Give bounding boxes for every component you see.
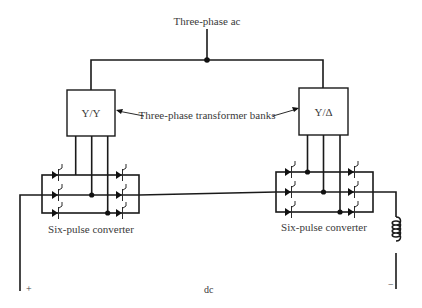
converter-left: Six-pulse converter bbox=[42, 136, 139, 235]
arrowhead-left-icon bbox=[116, 109, 123, 114]
dc-label: dc bbox=[204, 284, 214, 295]
transformer-yy-label: Y/Y bbox=[82, 107, 101, 119]
hvdc-diagram: Three-phase ac Y/Y Y/Δ Three-phase trans… bbox=[0, 0, 422, 308]
converter-right-label: Six-pulse converter bbox=[281, 221, 367, 233]
converter-right: Six-pulse converter bbox=[276, 135, 373, 233]
dc-negative-wire-top bbox=[373, 192, 396, 217]
dc-positive-wire bbox=[20, 195, 42, 291]
ac-junction-dot bbox=[204, 57, 210, 63]
plus-terminal-label: + bbox=[26, 283, 32, 294]
thyristor-icon bbox=[348, 161, 358, 178]
minus-terminal-label: − bbox=[388, 279, 394, 290]
series-link-wire bbox=[139, 192, 276, 195]
transformer-banks-label: Three-phase transformer banks bbox=[139, 109, 276, 121]
ac-bus bbox=[91, 60, 323, 90]
thyristor-icon bbox=[348, 181, 358, 198]
thyristor-icon bbox=[116, 202, 126, 219]
arrowhead-right-icon bbox=[292, 107, 299, 112]
thyristor-icon bbox=[285, 181, 295, 198]
thyristor-icon bbox=[52, 184, 62, 201]
thyristor-icon bbox=[116, 164, 126, 181]
converter-left-label: Six-pulse converter bbox=[48, 223, 134, 235]
thyristor-icon bbox=[285, 161, 295, 178]
inductor-icon bbox=[392, 217, 400, 241]
transformer-yy: Y/Y bbox=[67, 90, 115, 136]
thyristor-icon bbox=[52, 202, 62, 219]
thyristor-icon bbox=[285, 201, 295, 218]
ac-source-label: Three-phase ac bbox=[174, 15, 241, 27]
transformer-yd: Y/Δ bbox=[299, 88, 348, 135]
thyristor-icon bbox=[348, 201, 358, 218]
thyristor-icon bbox=[52, 164, 62, 181]
transformer-yd-label: Y/Δ bbox=[314, 106, 332, 118]
thyristor-icon bbox=[116, 184, 126, 201]
